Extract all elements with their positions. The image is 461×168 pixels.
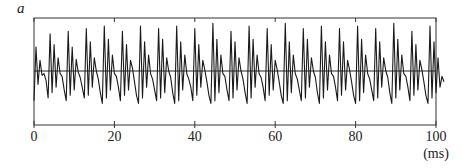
panel-label: a <box>17 0 25 17</box>
waveform-line <box>34 23 444 103</box>
x-tick-label-80: 80 <box>349 129 363 145</box>
x-tick-label-100: 100 <box>426 129 447 145</box>
x-tick-label-60: 60 <box>268 129 282 145</box>
plot-area <box>0 0 461 168</box>
x-tick-label-0: 0 <box>31 129 38 145</box>
x-tick-label-40: 40 <box>188 129 202 145</box>
waveform-chart: a 0 20 40 60 80 100 (ms) <box>0 0 461 168</box>
x-axis-unit-label: (ms) <box>423 146 449 162</box>
x-tick-label-20: 20 <box>107 129 121 145</box>
